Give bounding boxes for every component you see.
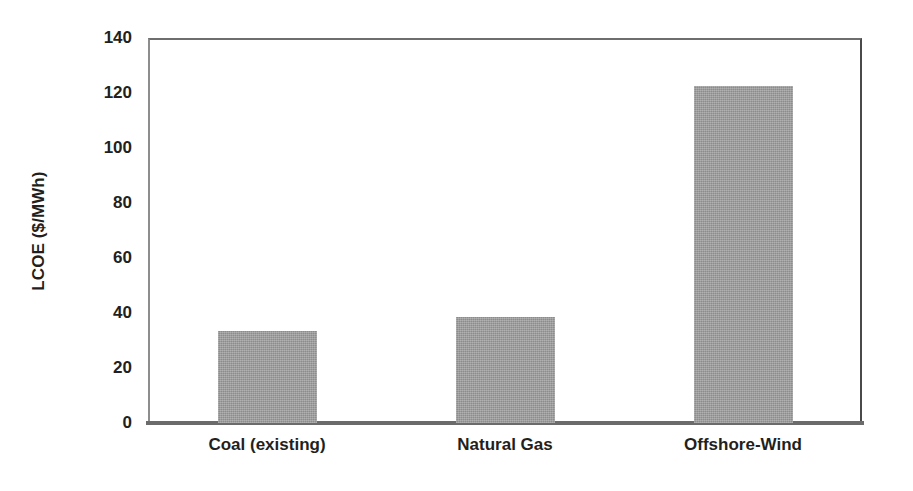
bar-chart-figure: LCOE ($/MWh) 020406080100120140 Coal (ex… [0,0,913,491]
y-axis-tick-label: 40 [113,303,132,323]
y-axis-tick-label: 80 [113,193,132,213]
bar [218,331,317,423]
y-axis-tick-label: 0 [123,413,132,433]
y-axis-tick-label: 100 [104,138,132,158]
x-axis-category-label: Natural Gas [457,435,552,455]
y-axis-tick-label: 20 [113,358,132,378]
bar [694,86,793,423]
bar [456,317,555,423]
y-axis-title: LCOE ($/MWh) [22,38,56,423]
x-axis-category-labels: Coal (existing)Natural GasOffshore-Wind [148,435,862,469]
y-axis-tick-label: 140 [104,28,132,48]
bar-series [148,38,862,423]
y-axis-title-text: LCOE ($/MWh) [29,171,49,290]
y-axis-tick-label: 120 [104,83,132,103]
x-axis-category-label: Offshore-Wind [684,435,802,455]
y-axis-tick-labels: 020406080100120140 [78,38,140,423]
x-axis-category-label: Coal (existing) [208,435,325,455]
y-axis-tick-label: 60 [113,248,132,268]
